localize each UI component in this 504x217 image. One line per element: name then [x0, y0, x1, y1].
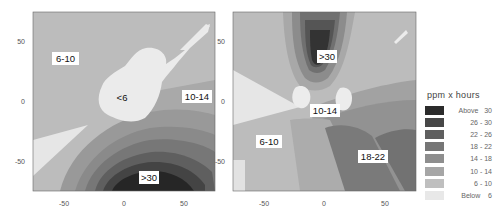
svg-text:0: 0 — [221, 98, 225, 105]
legend-item: Below 6 — [425, 189, 504, 201]
legend-swatch — [425, 167, 444, 176]
legend-title: ppm x hours — [427, 90, 504, 100]
svg-text:50: 50 — [217, 38, 225, 45]
svg-text:>30: >30 — [141, 172, 157, 183]
legend-swatch — [425, 118, 444, 127]
right-region-label-gt30: >30 — [317, 50, 337, 63]
left-y-axis: 50 0 -50 — [15, 38, 25, 165]
svg-text:0: 0 — [322, 200, 326, 207]
legend-swatch — [425, 142, 444, 151]
legend: ppm x hours Above 30 26 - 30 22 - 26 18 … — [425, 90, 504, 202]
svg-text:50: 50 — [381, 200, 389, 207]
right-contour-plot — [233, 12, 416, 191]
legend-item: 22 - 26 — [425, 128, 504, 140]
svg-text:50: 50 — [180, 200, 188, 207]
legend-item: 6 - 10 — [425, 177, 504, 189]
left-region-label-lt6: <6 — [117, 92, 128, 103]
legend-item: 26 - 30 — [425, 116, 504, 128]
left-region-label-10-14: 10-14 — [182, 90, 212, 103]
legend-swatch — [425, 154, 444, 163]
legend-swatch — [425, 179, 444, 188]
svg-text:0: 0 — [122, 200, 126, 207]
svg-text:10-14: 10-14 — [313, 105, 337, 116]
left-region-label-gt30: >30 — [139, 171, 159, 184]
svg-text:-50: -50 — [15, 158, 25, 165]
legend-swatch — [425, 191, 444, 200]
legend-item: Above 30 — [425, 104, 504, 116]
svg-text:-50: -50 — [215, 158, 225, 165]
svg-text:6-10: 6-10 — [259, 136, 278, 147]
svg-text:-50: -50 — [259, 200, 269, 207]
svg-text:6-10: 6-10 — [56, 53, 75, 64]
svg-text:-50: -50 — [59, 200, 69, 207]
svg-text:50: 50 — [17, 38, 25, 45]
legend-item: 18 - 22 — [425, 141, 504, 153]
right-y-axis: 50 0 -50 — [215, 38, 225, 165]
left-region-label-6-10: 6-10 — [52, 52, 79, 65]
svg-text:18-22: 18-22 — [361, 151, 385, 162]
legend-item: 10 - 14 — [425, 165, 504, 177]
legend-swatch — [425, 106, 444, 115]
right-x-axis: -50 0 50 — [259, 200, 389, 207]
svg-text:>30: >30 — [319, 51, 335, 62]
left-x-axis: -50 0 50 — [59, 200, 188, 207]
svg-text:10-14: 10-14 — [185, 91, 209, 102]
legend-item: 14 - 18 — [425, 153, 504, 165]
right-region-label-10-14: 10-14 — [310, 104, 340, 117]
right-region-label-18-22: 18-22 — [358, 150, 388, 163]
legend-swatch — [425, 130, 444, 139]
svg-text:0: 0 — [21, 98, 25, 105]
svg-text:<6: <6 — [117, 92, 128, 103]
right-region-label-6-10: 6-10 — [256, 135, 282, 148]
